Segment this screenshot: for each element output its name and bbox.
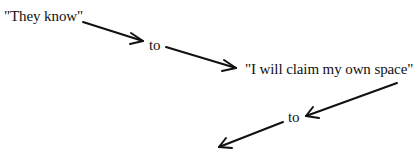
node-claim-own-space: "I will claim my own space" [245,61,413,77]
node-to-2: to [288,109,299,125]
arrow-start-to-to1 [83,22,143,44]
node-to-1: to [149,37,160,53]
arrow-to2-onward [219,122,283,148]
arrow-to1-to-claim [166,47,236,71]
arrow-claim-to-to2 [306,83,397,118]
node-they-know: "They know" [4,8,83,24]
